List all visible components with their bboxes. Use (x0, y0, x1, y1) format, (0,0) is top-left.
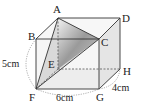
height-dimension-label: 5cm (2, 58, 19, 69)
width-dimension-label: 6cm (56, 92, 73, 103)
vertex-label-c: C (101, 36, 108, 48)
cuboid-diagram: A D B C E H F G 5cm 6cm 4cm (0, 0, 143, 107)
vertex-label-d: D (122, 12, 130, 24)
depth-dimension-label: 4cm (112, 82, 129, 93)
vertex-label-g: G (96, 91, 104, 103)
vertex-label-h: H (123, 65, 131, 77)
vertex-label-f: F (29, 91, 35, 103)
vertex-label-a: A (53, 3, 61, 15)
vertex-label-b: B (28, 30, 35, 42)
vertex-label-e: E (48, 58, 55, 70)
